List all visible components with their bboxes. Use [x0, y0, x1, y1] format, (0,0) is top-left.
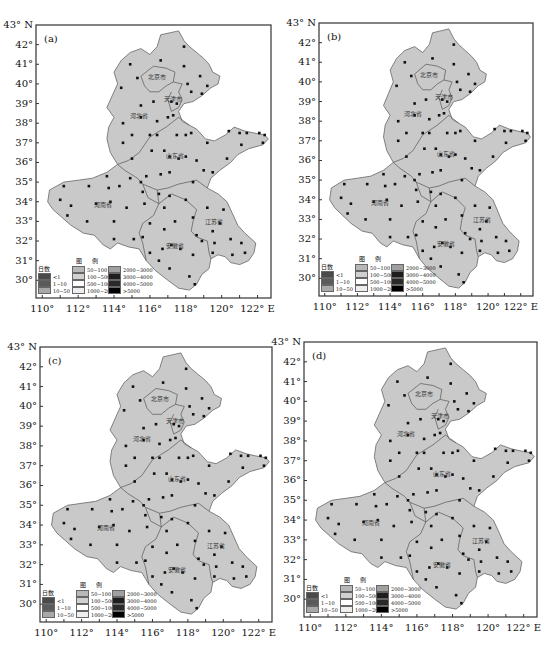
station-marker [149, 134, 152, 137]
y-axis-label: 36° [3, 480, 37, 490]
station-marker [194, 283, 197, 286]
region-label: 安徽省 [166, 241, 184, 250]
station-marker [188, 405, 191, 408]
legend-item: >5000 [391, 285, 423, 292]
legend-unit: 日数 [306, 585, 318, 591]
legend-swatch [72, 273, 85, 280]
station-marker [245, 575, 248, 578]
station-marker [364, 218, 367, 221]
station-marker [469, 487, 472, 490]
station-marker [131, 134, 134, 137]
x-axis-label: 114° [105, 628, 129, 638]
station-marker [423, 452, 426, 455]
legend-item: 2000~3000 [112, 590, 157, 597]
station-marker [413, 102, 416, 105]
region-label: 安徽省 [168, 565, 186, 574]
station-marker [400, 556, 403, 559]
station-marker [415, 234, 418, 237]
station-marker [199, 75, 202, 78]
legend-swatch [38, 273, 51, 280]
station-marker [478, 489, 481, 492]
legend-item-label: 2000~3000 [123, 267, 153, 273]
region-label: 山东省 [166, 151, 184, 160]
station-marker [132, 385, 135, 388]
station-marker [404, 61, 407, 64]
legend-swatch [340, 599, 353, 606]
station-marker [458, 535, 461, 538]
station-marker [467, 558, 470, 561]
station-marker [192, 181, 195, 184]
legend-item-label: 4000~5000 [391, 600, 421, 606]
legend-item-label: <1 [321, 593, 328, 599]
legend-item: 4000~5000 [391, 278, 436, 285]
y-axis-label: 38° [267, 436, 301, 446]
station-marker [211, 252, 214, 255]
station-marker [461, 214, 464, 217]
legend-swatch [321, 278, 334, 285]
station-marker [206, 142, 209, 145]
station-marker [158, 443, 161, 446]
station-marker [66, 214, 69, 217]
station-marker [163, 206, 166, 209]
station-marker [213, 553, 216, 556]
station-marker [150, 149, 153, 152]
region-label: 安徽省 [437, 239, 455, 248]
legend-item-label: 2000~3000 [391, 586, 421, 592]
station-marker [506, 461, 509, 464]
y-axis-label: 43° N [3, 342, 37, 352]
station-marker [118, 185, 121, 188]
legend-swatch [108, 273, 121, 280]
station-marker [375, 505, 378, 508]
legend-swatch [355, 271, 368, 278]
station-marker [524, 450, 527, 453]
legend-unit: 日数 [321, 264, 333, 270]
legend-item-label: 4000~5000 [123, 281, 153, 287]
station-marker [407, 422, 410, 425]
station-marker [394, 183, 397, 186]
y-axis-label: 31° [282, 254, 316, 264]
legend-swatch [42, 611, 55, 618]
station-marker [505, 240, 508, 243]
legend-item: 1~10 [306, 599, 335, 606]
y-axis-label: 33° [0, 216, 33, 226]
y-axis-label: 34° [0, 197, 33, 207]
x-axis-label: 116° [405, 623, 429, 633]
station-marker [464, 157, 467, 160]
x-axis-label: 122° E [503, 302, 538, 312]
station-marker [206, 85, 209, 88]
station-marker [168, 195, 171, 198]
station-marker [211, 171, 214, 174]
y-axis-label: 32° [0, 236, 33, 246]
y-axis-label: 39° [282, 97, 316, 107]
station-marker [409, 509, 412, 512]
x-axis-label: 120° [211, 628, 235, 638]
y-axis-label: 40° [267, 396, 301, 406]
station-marker [456, 81, 459, 84]
station-marker [178, 425, 181, 428]
x-axis-label: 114° [378, 302, 402, 312]
station-marker [397, 120, 400, 123]
legend-item: 2000~3000 [376, 585, 421, 592]
station-marker [505, 450, 508, 453]
station-marker [149, 252, 152, 255]
station-marker [405, 155, 408, 158]
station-marker [435, 226, 438, 229]
station-marker [407, 499, 410, 502]
station-marker [176, 544, 179, 547]
station-marker [215, 565, 218, 568]
station-marker [185, 368, 188, 371]
y-axis-label: 30° [282, 273, 316, 283]
station-marker [201, 397, 204, 400]
legend-swatch [38, 280, 51, 287]
legend-swatch [72, 287, 85, 294]
station-marker [190, 132, 193, 135]
legend-item: 2000~3000 [391, 264, 436, 271]
station-marker [493, 128, 496, 131]
station-marker [435, 204, 438, 207]
station-marker [353, 539, 356, 542]
station-marker [132, 500, 135, 503]
region-label: 河南省 [94, 200, 112, 209]
station-marker [387, 404, 390, 407]
station-marker [426, 376, 429, 379]
station-marker [426, 491, 429, 494]
